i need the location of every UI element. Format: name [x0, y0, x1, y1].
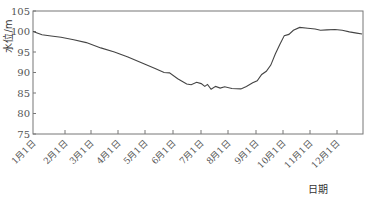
- y-tick-label: 105: [11, 6, 30, 17]
- y-tick-label: 95: [17, 47, 30, 58]
- y-tick-label: 85: [17, 88, 30, 99]
- plot-frame: [33, 11, 363, 134]
- y-tick-label: 90: [17, 67, 30, 78]
- plot-border: [33, 11, 363, 134]
- x-tick-label: 3月1日: [68, 138, 96, 166]
- x-axis-ticks: 1月1日2月1日3月1日4月1日5月1日6月1日7月1日8月1日9月1日10月1…: [10, 130, 342, 170]
- x-tick-label: 7月1日: [178, 138, 206, 166]
- y-axis-title: 水位/m: [2, 19, 14, 52]
- water-level-chart: 7580859095100105 1月1日2月1日3月1日4月1日5月1日6月1…: [0, 0, 369, 202]
- x-tick-label: 5月1日: [122, 138, 150, 166]
- x-tick-label: 12月1日: [309, 138, 341, 170]
- x-tick-label: 8月1日: [205, 138, 233, 166]
- x-tick-label: 11月1日: [282, 138, 314, 170]
- x-axis-title: 日期: [308, 184, 328, 195]
- x-tick-label: 10月1日: [255, 138, 287, 170]
- x-tick-label: 4月1日: [95, 138, 123, 166]
- x-tick-label: 6月1日: [150, 138, 178, 166]
- water-level-line: [33, 27, 362, 89]
- y-tick-label: 75: [17, 129, 30, 140]
- x-tick-label: 1月1日: [10, 138, 38, 166]
- y-tick-label: 80: [17, 108, 30, 119]
- x-tick-label: 2月1日: [42, 138, 70, 166]
- y-axis-ticks: 7580859095100105: [11, 6, 36, 140]
